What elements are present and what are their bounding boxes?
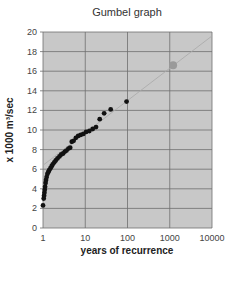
x-tick-label: 10000 [199, 233, 224, 243]
chart-title: Gumbel graph [92, 6, 162, 18]
y-tick-label: 0 [32, 223, 37, 233]
y-tick-label: 18 [27, 47, 37, 57]
y-axis-ticks: 02468101214161820 [27, 27, 37, 233]
data-point [124, 99, 129, 104]
data-point [41, 203, 46, 208]
y-tick-label: 8 [32, 145, 37, 155]
data-point [108, 107, 113, 112]
projected-point [169, 61, 177, 69]
y-axis-label: x 1000 m³/sec [4, 97, 15, 162]
x-tick-label: 100 [120, 233, 135, 243]
data-point [102, 111, 107, 116]
data-point [68, 145, 73, 150]
projected-data-point [169, 61, 177, 69]
data-point [94, 125, 99, 130]
x-tick-label: 10 [80, 233, 90, 243]
gumbel-chart: Gumbel graph 02468101214161820 110100100… [0, 0, 237, 285]
y-tick-label: 12 [27, 105, 37, 115]
y-tick-label: 16 [27, 66, 37, 76]
y-tick-label: 14 [27, 86, 37, 96]
x-axis-ticks: 110100100010000 [40, 233, 224, 243]
x-tick-label: 1000 [160, 233, 180, 243]
y-tick-label: 6 [32, 164, 37, 174]
y-tick-label: 20 [27, 27, 37, 37]
data-point [97, 117, 102, 122]
y-tick-label: 4 [32, 184, 37, 194]
x-axis-label: years of recurrence [81, 245, 174, 256]
y-tick-label: 10 [27, 125, 37, 135]
x-tick-label: 1 [40, 233, 45, 243]
y-tick-label: 2 [32, 203, 37, 213]
